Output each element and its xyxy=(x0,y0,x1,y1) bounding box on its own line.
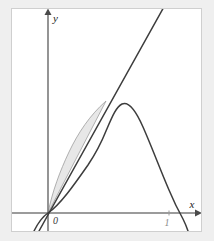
x-axis-label: x xyxy=(189,198,195,210)
x-axis-arrow-icon xyxy=(195,210,201,217)
x-tick-label-1: 1 xyxy=(165,217,170,228)
figure-root: y x 0 1 xyxy=(0,0,214,241)
origin-label: 0 xyxy=(53,215,58,226)
plot-panel: y x 0 1 xyxy=(11,8,202,232)
shaded-region-area-between-curves xyxy=(48,101,106,213)
curve-parabola xyxy=(34,103,188,231)
curve-line xyxy=(39,9,165,231)
plot-svg: y x 0 1 xyxy=(12,9,201,231)
y-axis-label: y xyxy=(52,12,58,24)
y-axis-arrow-icon xyxy=(45,9,52,15)
